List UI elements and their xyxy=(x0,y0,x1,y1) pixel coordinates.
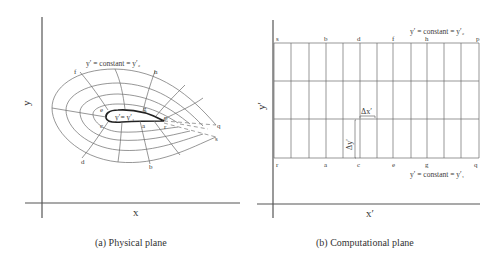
point-d: d xyxy=(357,35,361,43)
point-s: s xyxy=(276,35,279,43)
inner-boundary-label: y′= y′₁ xyxy=(115,113,135,122)
point-q: q xyxy=(217,122,221,130)
point-a: a xyxy=(142,122,146,130)
point-c: c xyxy=(100,122,103,130)
radial-line-d xyxy=(82,122,108,158)
point-e: e xyxy=(100,106,103,114)
outer-boundary-label: y′ = constant = y′₂ xyxy=(86,59,141,68)
computational-y-label: y′ xyxy=(255,102,267,110)
point-s: s xyxy=(215,135,218,143)
delta-x-bracket xyxy=(360,116,375,118)
point-q: q xyxy=(474,161,478,169)
point-r: r xyxy=(164,123,167,131)
point-f: f xyxy=(74,68,77,76)
computational-plane-caption: (b) Computational plane xyxy=(316,237,414,248)
radial-line xyxy=(115,69,125,109)
point-p: p xyxy=(476,35,480,43)
diagram-canvas: x y f h e g c a p r q s d xyxy=(0,0,501,268)
point-g: g xyxy=(143,105,147,113)
physical-y-label: y xyxy=(20,100,32,106)
grid-vertical-lines xyxy=(274,43,479,158)
point-c: c xyxy=(357,161,360,169)
computational-x-label: x′ xyxy=(366,207,374,219)
point-h: h xyxy=(154,68,158,76)
point-b: b xyxy=(324,35,328,43)
point-h: h xyxy=(425,35,429,43)
radial-line xyxy=(52,108,106,117)
delta-y-bracket xyxy=(355,120,356,158)
physical-plane-caption: (a) Physical plane xyxy=(95,237,167,248)
point-a: a xyxy=(324,161,328,169)
grid-horizontal-lines xyxy=(274,43,479,158)
radial-line xyxy=(118,122,122,162)
point-b: b xyxy=(149,163,153,171)
physical-x-label: x xyxy=(133,206,139,218)
delta-y-label: Δy′ xyxy=(345,139,354,150)
radial-line xyxy=(156,85,185,116)
wake-cut-mid xyxy=(180,124,208,129)
point-f: f xyxy=(392,35,395,43)
point-e: e xyxy=(392,161,395,169)
physical-plane: x y f h e g c a p r q s d xyxy=(20,17,240,218)
point-d: d xyxy=(81,158,85,166)
wake-cut-upper xyxy=(164,121,216,125)
point-g: g xyxy=(425,161,429,169)
point-r: r xyxy=(276,161,279,169)
point-p: p xyxy=(164,114,168,122)
radial-line xyxy=(162,98,203,120)
computational-plane: x′ y′ Δx′ Δy′ xyxy=(255,20,480,219)
delta-x-label: Δx′ xyxy=(361,107,372,116)
top-boundary-label: y′ = constant = y′₂ xyxy=(410,27,465,36)
bottom-boundary-label: y′ = constant = y′₁ xyxy=(410,170,465,179)
